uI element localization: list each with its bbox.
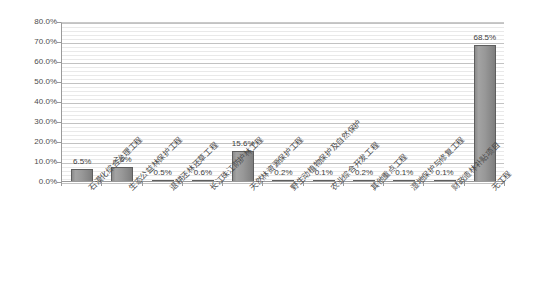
x-axis-labels: 石漠化综合治理工程生态公益林保护工程退耕还林还草工程长江珠江防护林工程天然林资源… bbox=[0, 186, 533, 292]
y-axis-tick-label: 50.0% bbox=[1, 78, 57, 86]
x-axis-category-label: 其他重点工程 bbox=[369, 186, 375, 192]
x-axis-category-label: 湿地保护与修复工程 bbox=[409, 186, 415, 192]
y-axis-labels: 0.0%10.0%20.0%30.0%40.0%50.0%60.0%70.0%8… bbox=[0, 22, 57, 182]
bar-chart: 0.0%10.0%20.0%30.0%40.0%50.0%60.0%70.0%8… bbox=[0, 0, 533, 292]
bar-value-label: 6.5% bbox=[73, 157, 91, 166]
y-axis-tick-label: 70.0% bbox=[1, 38, 57, 46]
x-axis-category-label: 退耕还林还草工程 bbox=[168, 186, 174, 192]
x-axis-category-label: 农业综合开发工程 bbox=[329, 186, 335, 192]
x-axis-category-label: 野生动植物保护及自然保护 bbox=[289, 186, 295, 192]
y-axis-tick-label: 20.0% bbox=[1, 138, 57, 146]
bar-group[interactable]: 6.5% bbox=[62, 23, 102, 182]
y-axis-tick-label: 30.0% bbox=[1, 118, 57, 126]
x-axis-category-label: 长江珠江防护林工程 bbox=[208, 186, 214, 192]
y-axis-tick-label: 80.0% bbox=[1, 18, 57, 26]
y-axis-tick-label: 10.0% bbox=[1, 158, 57, 166]
x-axis-category-label: 天然林资源保护工程 bbox=[248, 186, 254, 192]
bar-value-label: 68.5% bbox=[474, 33, 497, 42]
x-axis-category-label: 财政造林补贴项目 bbox=[450, 186, 456, 192]
y-axis-tick-label: 40.0% bbox=[1, 98, 57, 106]
x-axis-category-label: 石漠化综合治理工程 bbox=[87, 186, 93, 192]
y-axis-tick-label: 60.0% bbox=[1, 58, 57, 66]
y-axis-tick-label: 0.0% bbox=[1, 178, 57, 186]
x-axis-category-label: 无工程 bbox=[490, 186, 496, 192]
x-axis-category-label: 生态公益林保护工程 bbox=[127, 186, 133, 192]
